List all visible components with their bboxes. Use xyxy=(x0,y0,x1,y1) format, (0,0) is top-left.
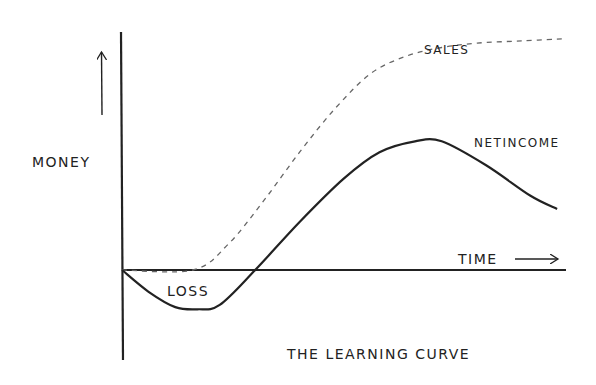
annotation-net-income: NETINCOME xyxy=(474,136,560,150)
y-direction-arrow-icon xyxy=(102,52,103,115)
chart-title: THE LEARNING CURVE xyxy=(286,346,470,362)
learning-curve-chart: MONEY TIME SALES NETINCOME LOSS THE LEAR… xyxy=(0,0,596,385)
annotation-sales: SALES xyxy=(424,43,469,57)
sales-curve xyxy=(122,39,566,272)
y-axis xyxy=(121,32,123,360)
x-axis-label: TIME xyxy=(457,251,498,267)
annotation-loss: LOSS xyxy=(167,283,209,299)
y-axis-label: MONEY xyxy=(32,154,90,170)
